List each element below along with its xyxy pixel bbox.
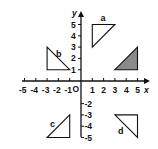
triangle-shaded: [115, 47, 138, 70]
x-tick-label: 3: [113, 85, 118, 95]
x-axis-label: x: [143, 85, 150, 95]
y-tick-label: -4: [85, 121, 93, 131]
y-axis-label: y: [71, 8, 78, 18]
y-axis-arrow-icon: [78, 11, 84, 17]
x-tick-label: 2: [101, 85, 106, 95]
triangle-b-label: b: [56, 49, 62, 59]
x-tick-label: -3: [42, 85, 50, 95]
x-tick-label: -2: [53, 85, 61, 95]
y-tick-label: 3: [71, 42, 76, 52]
x-tick-labels: -5 -4 -3 -2 -1 1 2 3 4 5: [19, 85, 140, 95]
triangle-c-label: c: [50, 119, 55, 129]
x-tick-label: 5: [135, 85, 140, 95]
x-tick-label: 4: [124, 85, 129, 95]
origin-label: O: [73, 84, 80, 94]
y-tick-label: -2: [85, 99, 93, 109]
y-tick-label: 4: [71, 31, 76, 41]
x-tick-label: -4: [31, 85, 39, 95]
y-tick-label: 5: [71, 20, 76, 30]
triangles: a b c d: [47, 13, 137, 138]
x-tick-label: 1: [90, 85, 95, 95]
triangle-d-label: d: [118, 126, 124, 136]
coordinate-grid: -5 -4 -3 -2 -1 1 2 3 4 5 5 4 3 2 1 -2 -3…: [0, 0, 158, 149]
x-tick-label: -5: [19, 85, 27, 95]
triangle-a-label: a: [101, 13, 107, 23]
triangle-a: [92, 25, 115, 48]
x-tick-label: -1: [64, 85, 72, 95]
y-tick-label: 2: [71, 53, 76, 63]
y-tick-label: -3: [85, 110, 93, 120]
y-tick-label: 1: [71, 65, 76, 75]
y-tick-label: -5: [85, 133, 93, 143]
x-axis-arrow-icon: [144, 78, 150, 84]
